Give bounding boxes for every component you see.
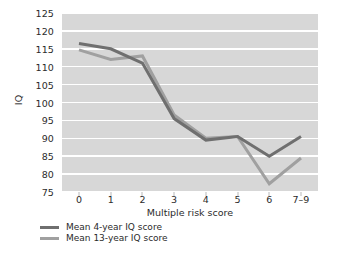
legend-swatch bbox=[40, 226, 59, 229]
legend-swatch bbox=[40, 237, 59, 240]
x-tick-mark bbox=[205, 192, 206, 196]
x-tick-mark bbox=[142, 192, 143, 196]
x-tick-mark bbox=[110, 192, 111, 196]
x-tick-mark bbox=[174, 192, 175, 196]
y-tick-label: 125 bbox=[36, 8, 58, 19]
legend-item: Mean 4-year IQ score bbox=[40, 222, 168, 233]
chart-legend: Mean 4-year IQ scoreMean 13-year IQ scor… bbox=[40, 222, 168, 244]
series-line bbox=[79, 50, 301, 184]
y-tick-label: 75 bbox=[42, 187, 58, 198]
y-tick-label: 85 bbox=[42, 151, 58, 162]
y-tick-label: 105 bbox=[36, 79, 58, 90]
x-tick-mark bbox=[237, 192, 238, 196]
y-tick-label: 95 bbox=[42, 115, 58, 126]
y-axis-title: IQ bbox=[13, 95, 24, 105]
series-plot bbox=[62, 13, 318, 192]
y-tick-label: 120 bbox=[36, 25, 58, 36]
x-tick-mark bbox=[79, 192, 80, 196]
x-tick-mark bbox=[269, 192, 270, 196]
y-tick-label: 115 bbox=[36, 43, 58, 54]
y-tick-label: 100 bbox=[36, 97, 58, 108]
x-axis-title: Multiple risk score bbox=[62, 207, 318, 218]
legend-item: Mean 13-year IQ score bbox=[40, 233, 168, 244]
legend-label: Mean 4-year IQ score bbox=[66, 222, 162, 233]
legend-label: Mean 13-year IQ score bbox=[66, 233, 168, 244]
x-tick-mark bbox=[301, 192, 302, 196]
y-axis-tick-labels: 1251201151101051009590858075 bbox=[0, 13, 58, 192]
y-tick-label: 90 bbox=[42, 133, 58, 144]
y-tick-label: 110 bbox=[36, 61, 58, 72]
y-tick-label: 80 bbox=[42, 169, 58, 180]
iq-multiple-risk-line-chart: 1251201151101051009590858075 IQ 01234567… bbox=[0, 0, 344, 255]
